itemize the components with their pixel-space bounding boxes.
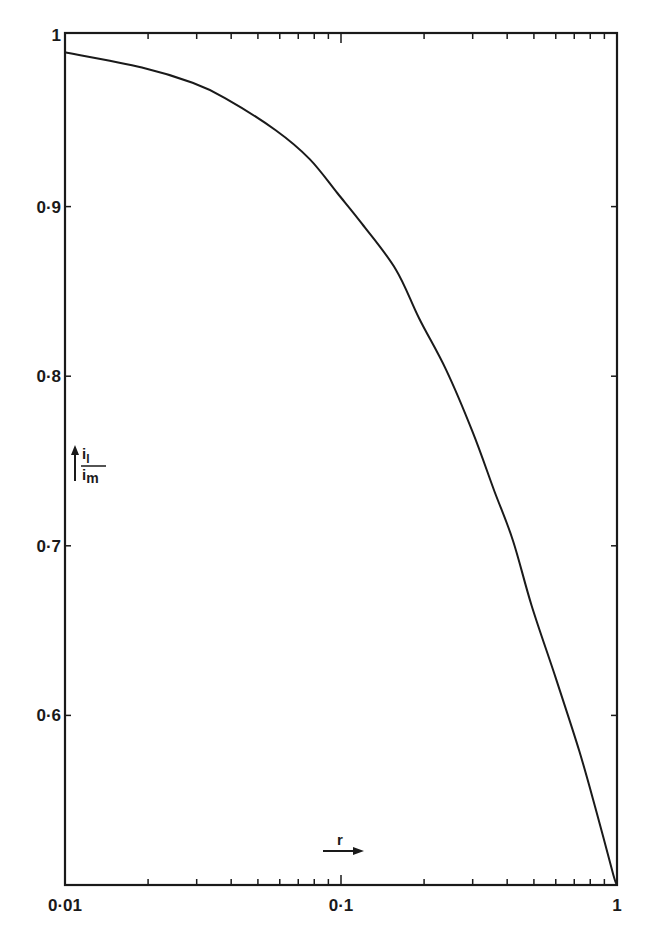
y-label-numerator-sub: l [86, 452, 89, 466]
x-label-symbol: r [337, 831, 343, 848]
right-arrowhead-icon [353, 847, 364, 855]
plot-frame [65, 33, 617, 885]
chart: 10·90·80·70·6 0·010·11 il im r [0, 0, 652, 930]
svg-text:il: il [82, 445, 90, 466]
y-tick-label: 1 [52, 26, 61, 45]
x-tick-labels: 0·010·11 [48, 896, 622, 915]
y-axis-label: il im [71, 445, 106, 486]
y-tick-label: 0·8 [36, 367, 61, 386]
up-arrowhead-icon [71, 445, 79, 455]
x-tick-label: 1 [612, 896, 621, 915]
y-tick-label: 0·6 [36, 706, 61, 725]
x-tick-label: 0·1 [329, 896, 354, 915]
plot-border [65, 33, 617, 885]
svg-text:im: im [82, 466, 99, 486]
x-tick-label: 0·01 [48, 896, 82, 915]
y-tick-labels: 10·90·80·70·6 [36, 26, 61, 725]
data-curve [65, 52, 617, 885]
y-label-denominator-sub: m [86, 470, 98, 486]
y-tick-label: 0·7 [36, 537, 61, 556]
axis-ticks [65, 33, 617, 885]
x-axis-label: r [323, 831, 364, 855]
y-tick-label: 0·9 [36, 198, 61, 217]
